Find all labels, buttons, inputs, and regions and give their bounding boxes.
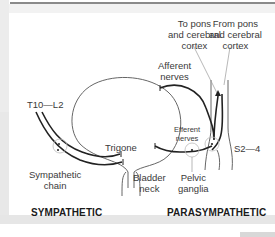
label-sympathetic-chain: Sympathetic chain <box>29 169 81 191</box>
label-trigone: Trigone <box>105 142 137 153</box>
to-pons-leader <box>193 45 218 95</box>
heading-sympathetic: SYMPATHETIC <box>31 207 102 218</box>
label-efferent-nerves: Efferent nerves <box>174 125 200 143</box>
label-pelvic-ganglia: Pelvic ganglia <box>178 172 209 194</box>
heading-parasympathetic: PARASYMPATHETIC <box>167 207 266 218</box>
label-t10-l2: T10—L2 <box>27 99 63 110</box>
efferent-nerve <box>155 146 212 152</box>
label-s2-4: S2—4 <box>234 143 260 154</box>
from-pons-leader <box>224 47 230 85</box>
label-from-pons: From pons and cerebral cortex <box>209 18 262 51</box>
spinal-cord-right <box>228 80 232 170</box>
label-bladder-neck: Bladder neck <box>133 172 166 194</box>
label-afferent-nerves: Afferent nerves <box>158 60 191 82</box>
spinal-cord-left <box>205 80 211 170</box>
sympathetic-chain-ganglion <box>53 139 67 153</box>
bladder-neck-left <box>122 172 126 196</box>
